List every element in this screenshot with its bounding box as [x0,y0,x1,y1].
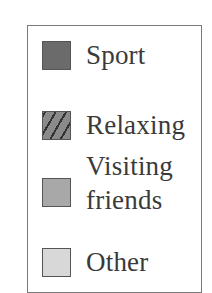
legend-box: Sport Relaxing Visiting friends Other [27,25,202,293]
visiting-friends-swatch-icon [42,178,71,207]
legend-label-relaxing: Relaxing [86,110,185,140]
legend-label-visiting-line2: friends [86,185,162,215]
relaxing-hatched-swatch-icon [42,111,71,140]
legend-label-visiting-line1: Visiting [86,151,173,181]
legend-label-other: Other [86,247,148,277]
other-swatch-icon [42,248,71,277]
sport-swatch-icon [42,41,71,70]
legend-label-sport: Sport [86,40,146,70]
